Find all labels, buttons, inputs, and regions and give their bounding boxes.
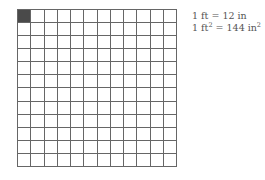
grid-cell <box>123 87 136 100</box>
grid-cell <box>30 153 43 166</box>
grid-cell <box>163 74 176 87</box>
grid-cell <box>136 127 149 140</box>
grid-cell <box>123 101 136 114</box>
grid-cell <box>70 22 83 35</box>
grid-cell <box>136 35 149 48</box>
grid-cell <box>136 22 149 35</box>
grid-cell <box>150 127 163 140</box>
grid-cell <box>17 61 30 74</box>
grid-cell <box>97 61 110 74</box>
grid-cell <box>70 61 83 74</box>
grid-cell <box>123 61 136 74</box>
grid-cell <box>163 153 176 166</box>
grid-cell <box>70 153 83 166</box>
grid-cell <box>30 22 43 35</box>
grid-cell <box>44 35 57 48</box>
legend-line-feet-inches: 1 ft = 12 in <box>192 10 261 22</box>
grid-cell <box>30 48 43 61</box>
grid-cell <box>123 35 136 48</box>
grid-cell <box>163 114 176 127</box>
grid-cell <box>57 22 70 35</box>
grid-cell <box>150 74 163 87</box>
grid-cell <box>83 114 96 127</box>
grid-cell <box>150 61 163 74</box>
grid-cell <box>83 101 96 114</box>
grid-cell <box>97 114 110 127</box>
grid-cell <box>136 74 149 87</box>
grid-cell <box>83 35 96 48</box>
grid-cell <box>44 9 57 22</box>
grid-cell <box>136 48 149 61</box>
grid-cell <box>123 9 136 22</box>
grid-cell <box>163 48 176 61</box>
unit-grid <box>17 9 177 167</box>
grid-cell <box>150 9 163 22</box>
grid-cell <box>57 48 70 61</box>
legend-line-square-feet: 1 ft2 = 144 in2 <box>192 22 261 34</box>
grid-cell <box>57 140 70 153</box>
grid-cell <box>110 87 123 100</box>
grid-cell <box>44 61 57 74</box>
grid-cell <box>57 61 70 74</box>
grid-cell <box>163 35 176 48</box>
grid-cell <box>97 48 110 61</box>
grid-cell <box>30 74 43 87</box>
grid-cell <box>83 127 96 140</box>
grid-cell <box>110 101 123 114</box>
grid-cell <box>83 153 96 166</box>
grid-cell <box>110 140 123 153</box>
grid-cell <box>150 35 163 48</box>
grid-cell <box>163 61 176 74</box>
grid-cell <box>150 48 163 61</box>
grid-cell <box>30 101 43 114</box>
grid-cell <box>150 153 163 166</box>
grid-cell <box>30 87 43 100</box>
grid-cell <box>17 140 30 153</box>
grid-cell <box>110 48 123 61</box>
grid-cell <box>163 22 176 35</box>
grid-cell <box>70 48 83 61</box>
grid-cell <box>44 101 57 114</box>
grid-cell <box>30 35 43 48</box>
grid-cell <box>123 114 136 127</box>
grid-cell <box>97 9 110 22</box>
grid-cell <box>136 140 149 153</box>
grid-cell <box>136 101 149 114</box>
grid-cell <box>44 114 57 127</box>
grid-cell <box>30 140 43 153</box>
grid-cell <box>57 101 70 114</box>
grid-cell <box>163 9 176 22</box>
grid-cell <box>97 35 110 48</box>
grid-cell <box>110 22 123 35</box>
grid-cell <box>57 9 70 22</box>
grid-cell <box>97 127 110 140</box>
legend: 1 ft = 12 in 1 ft2 = 144 in2 <box>192 10 261 34</box>
grid-cell <box>44 140 57 153</box>
grid-cell <box>110 114 123 127</box>
grid-cell <box>163 101 176 114</box>
grid-cell <box>97 140 110 153</box>
grid-cell <box>110 74 123 87</box>
grid-cell <box>123 48 136 61</box>
grid-cell <box>163 140 176 153</box>
grid-cell <box>97 22 110 35</box>
grid-cell <box>123 127 136 140</box>
grid-cell <box>123 140 136 153</box>
grid-cell <box>57 153 70 166</box>
grid-cell <box>97 74 110 87</box>
grid-cell <box>110 61 123 74</box>
grid-cell <box>17 48 30 61</box>
grid-cell <box>83 74 96 87</box>
grid-cell <box>44 127 57 140</box>
grid-cell <box>97 153 110 166</box>
grid-cell <box>57 87 70 100</box>
grid-cell <box>70 35 83 48</box>
grid-cell <box>136 153 149 166</box>
grid-cell <box>150 114 163 127</box>
grid-cell <box>17 22 30 35</box>
grid-cell <box>150 22 163 35</box>
grid-cell <box>123 153 136 166</box>
grid-cell <box>136 87 149 100</box>
grid-cell <box>30 127 43 140</box>
grid-cell <box>57 127 70 140</box>
